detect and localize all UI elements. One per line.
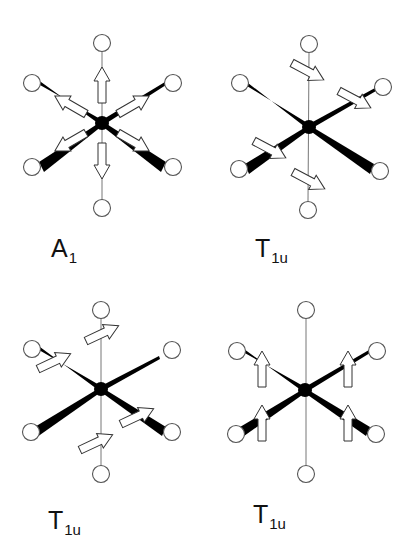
central-atom [95, 116, 109, 130]
arrow-up [94, 67, 110, 103]
label-t1u-c: T1u [253, 502, 286, 527]
ligand-lower-left [231, 161, 248, 178]
ligand-upper-right [165, 75, 182, 92]
ligand-upper-right [369, 343, 386, 360]
bond-lower-left [240, 388, 305, 436]
bond-upper-left [247, 83, 309, 130]
ligand-lower-left [228, 426, 245, 443]
ligand-upper-left [232, 75, 249, 92]
ligand-lower-right [164, 424, 181, 441]
ligand-bottom [94, 200, 111, 217]
bond-upper-left [243, 349, 305, 393]
ligand-top [301, 36, 318, 53]
ligand-lower-right [372, 163, 389, 180]
ligand-upper-left [24, 75, 41, 92]
central-atom [298, 383, 312, 397]
label-t1u-a: T1u [255, 236, 288, 261]
octahedral-modes-diagram [0, 0, 414, 558]
panel-t1u-b [23, 302, 181, 483]
ligand-top [93, 302, 110, 319]
bond-upper-right [305, 350, 370, 393]
panel-t1u-c [228, 302, 386, 483]
arrow-bottom [77, 428, 116, 458]
ligand-upper-right [375, 79, 392, 96]
ligand-upper-left [229, 343, 246, 360]
arrow-top [83, 319, 122, 349]
ligand-lower-left [23, 424, 40, 441]
bond-upper-right [101, 356, 160, 392]
ligand-upper-right [164, 342, 181, 359]
bond-lower-left [33, 387, 101, 437]
arrow-top [288, 56, 327, 87]
arrow-bottom [289, 165, 328, 196]
ligand-bottom [298, 466, 315, 483]
ligand-lower-right [165, 159, 182, 176]
panel-a1 [24, 35, 182, 217]
bond-lower-right [305, 388, 370, 436]
ligand-lower-right [368, 426, 385, 443]
bond-lower-right [101, 387, 166, 436]
ligand-top [298, 302, 315, 319]
bond-lower-right [309, 125, 374, 174]
ligand-top [94, 35, 111, 52]
arrow-upper-left [254, 351, 270, 387]
ligand-lower-left [24, 159, 41, 176]
ligand-bottom [300, 202, 317, 219]
ligand-bottom [93, 466, 110, 483]
central-atom [302, 120, 316, 134]
central-atom [94, 382, 108, 396]
label-a1: A1 [51, 236, 77, 261]
panel-t1u-a [231, 36, 392, 219]
ligand-upper-left [24, 341, 41, 358]
arrow-down [94, 143, 110, 179]
label-t1u-b: T1u [48, 508, 81, 533]
